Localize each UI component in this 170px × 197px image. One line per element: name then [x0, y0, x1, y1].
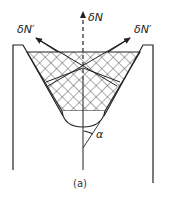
force-arrow-left — [36, 38, 58, 52]
label-right-force: δN′ — [134, 23, 152, 36]
label-left-force: δN′ — [17, 23, 35, 36]
label-normal-force: δN — [88, 11, 103, 24]
force-arrow-right — [108, 38, 130, 52]
diagram-canvas: δN δN′ δN′ α (a) — [0, 0, 170, 197]
angle-arc — [84, 131, 93, 134]
label-angle: α — [96, 128, 104, 141]
figure-caption: (a) — [73, 178, 87, 189]
